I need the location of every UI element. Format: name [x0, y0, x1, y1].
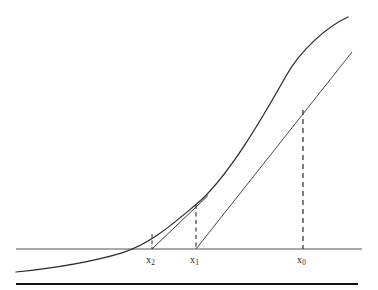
figure-canvas [0, 0, 378, 290]
tangent-at-x0-line [196, 52, 352, 249]
tick-label-x2-subscript: 2 [151, 259, 155, 267]
newton-method-figure: x2 x1 x0 [0, 0, 378, 290]
tick-label-x0: x0 [297, 255, 306, 267]
tick-label-x1-subscript: 1 [195, 259, 199, 267]
tangent-at-x1-line [152, 196, 208, 250]
tick-label-x1: x1 [190, 255, 199, 267]
tick-label-x0-subscript: 0 [302, 259, 306, 267]
function-curve [16, 17, 348, 272]
tick-label-x2: x2 [146, 255, 155, 267]
